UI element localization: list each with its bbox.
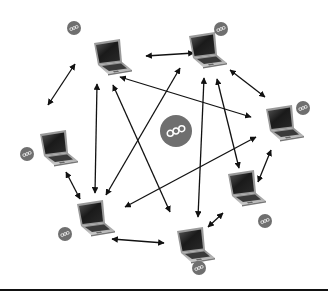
network-badge-icon [67, 21, 81, 35]
arrow-L5-L7 [208, 213, 223, 227]
laptop-icon [177, 227, 215, 264]
arrow-L1-L2 [146, 53, 194, 56]
diagram-canvas [0, 0, 328, 297]
network-badge-icon [258, 214, 272, 228]
arrow-L2-L3 [230, 70, 265, 97]
network-badge-icon [296, 101, 310, 115]
network-badge-icon [214, 22, 228, 36]
arrow-L4-L6 [66, 172, 80, 199]
network-badge-icon [20, 147, 34, 161]
laptop-bottom-center [177, 227, 215, 275]
laptop-icon [94, 39, 132, 76]
laptop-right [266, 101, 310, 142]
arrow-L6-L7 [112, 239, 164, 243]
laptop-icon [189, 32, 227, 69]
arrow-L2-L5 [217, 79, 239, 168]
laptop-icon [77, 200, 115, 237]
laptop-icon [40, 130, 78, 167]
bottom-rule [0, 289, 328, 291]
arrow-L1-L4 [48, 64, 75, 105]
p2p-network-icon [160, 115, 192, 147]
arrow-L2-L7 [198, 78, 204, 217]
network-badge-icon [58, 227, 72, 241]
nodes-layer [20, 21, 310, 275]
network-badge-icon [192, 261, 206, 275]
laptop-bottom-left [58, 200, 115, 241]
laptop-top-center [189, 22, 228, 69]
arrow-L3-L5 [258, 150, 271, 182]
laptop-right-lower [228, 170, 272, 228]
network-diagram [0, 0, 328, 297]
central-badge [160, 115, 192, 147]
arrow-L1-L3 [120, 77, 251, 117]
arrow-L1-L6 [95, 84, 97, 193]
laptop-left [20, 130, 78, 167]
arrow-L1-L7 [113, 85, 170, 212]
laptop-top-left [67, 21, 132, 76]
